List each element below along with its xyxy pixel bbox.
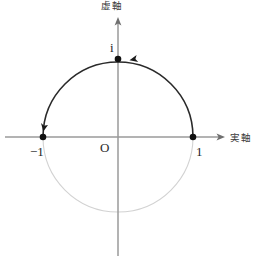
negative-one-label: −1 — [30, 145, 44, 158]
imaginary-unit-label: i — [110, 41, 114, 54]
origin-label: O — [100, 141, 109, 154]
point-minus-one — [40, 134, 47, 141]
figure-canvas — [0, 0, 259, 269]
positive-one-label: 1 — [196, 145, 203, 158]
point-imaginary-unit — [115, 56, 122, 63]
imaginary-axis-label: 虚軸 — [101, 1, 122, 11]
complex-plane-unit-circle-figure: 虚軸 実軸 i O −1 1 — [0, 0, 259, 269]
real-axis-label: 実軸 — [230, 133, 251, 143]
arc-direction-arrowhead-near-i-icon — [130, 55, 139, 62]
point-one — [190, 134, 197, 141]
